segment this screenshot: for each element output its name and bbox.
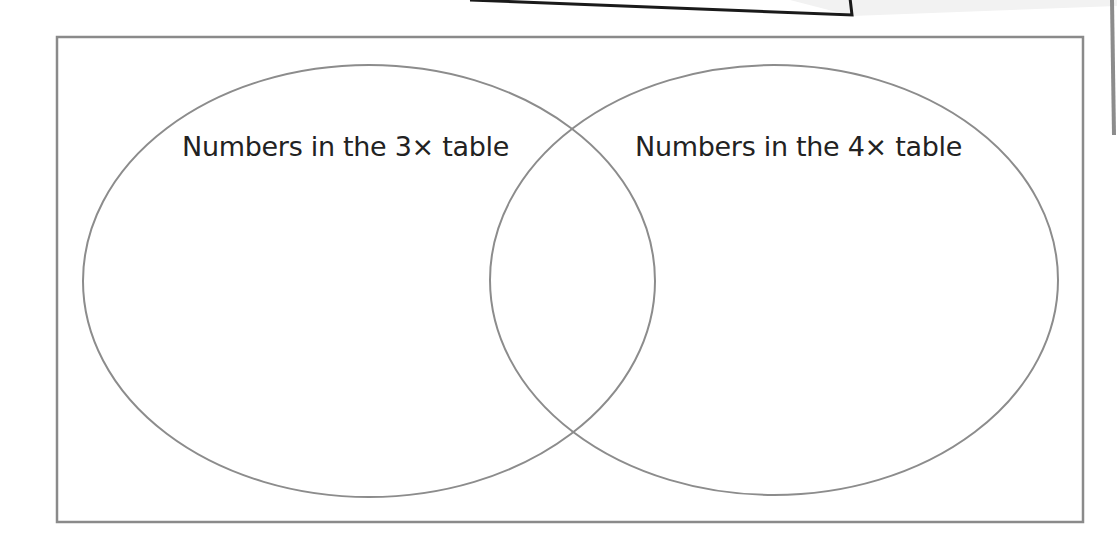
universal-set-frame xyxy=(57,37,1083,522)
top-partial-shape xyxy=(470,0,1117,16)
set-label-3x-table: Numbers in the 3× table xyxy=(182,131,509,162)
venn-diagram-canvas xyxy=(0,0,1117,535)
set-label-4x-table: Numbers in the 4× table xyxy=(635,131,962,162)
right-edge-stroke xyxy=(1112,0,1114,135)
